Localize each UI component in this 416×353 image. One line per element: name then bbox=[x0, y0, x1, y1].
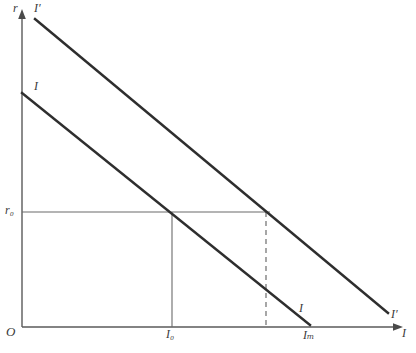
curve-label-investment-shifted-end: I′ bbox=[391, 308, 398, 320]
y-axis-label: r bbox=[13, 2, 18, 14]
curve-label-investment-original-end: I bbox=[299, 302, 303, 314]
origin-label: O bbox=[6, 325, 15, 338]
x-axis-label: I bbox=[402, 327, 406, 339]
tick-label-I0: I₀ bbox=[166, 328, 174, 340]
curve-investment-shifted bbox=[35, 19, 388, 313]
tick-label-r0: r₀ bbox=[5, 204, 14, 216]
figure-canvas bbox=[0, 0, 416, 353]
y-axis-arrowhead bbox=[18, 9, 26, 19]
curve-label-investment-original-start: I bbox=[34, 80, 38, 92]
curve-label-investment-shifted-start: I′ bbox=[34, 2, 41, 14]
tick-label-Im: Iₘ bbox=[303, 329, 314, 341]
investment-demand-figure: r I O r₀ I₀ Iₘ I I I′ I′ bbox=[0, 0, 416, 353]
